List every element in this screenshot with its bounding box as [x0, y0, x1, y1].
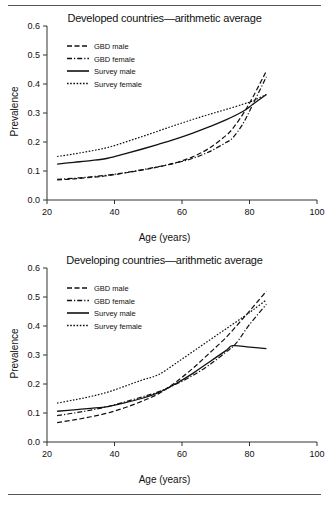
bottom-divider-rule [8, 494, 321, 495]
x-tick-label: 100 [309, 449, 324, 459]
y-tick-label: 0.4 [27, 79, 40, 89]
legend-label: Survey female [94, 322, 142, 331]
x-tick-label: 40 [109, 449, 119, 459]
x-tick-label: 80 [244, 449, 254, 459]
x-tick-label: 80 [244, 207, 254, 217]
legend-label: GBD male [94, 284, 129, 293]
x-tick-label: 100 [309, 207, 324, 217]
y-tick-label: 0.6 [27, 263, 40, 273]
y-tick-label: 0.3 [27, 350, 40, 360]
series-line [57, 300, 266, 403]
legend-label: Survey female [94, 80, 142, 89]
chart-developed: Developed countries—arithmetic average P… [0, 10, 329, 252]
x-tick-label: 40 [109, 207, 119, 217]
x-tick-label: 20 [42, 207, 52, 217]
y-tick-label: 0.6 [27, 21, 40, 31]
x-tick-label: 20 [42, 449, 52, 459]
series-line [57, 304, 266, 415]
chart-developing: Developing countries—arithmetic average … [0, 252, 329, 494]
series-line [57, 346, 266, 412]
y-tick-label: 0.3 [27, 108, 40, 118]
y-tick-label: 0.1 [27, 408, 40, 418]
series-line [57, 291, 266, 422]
y-tick-label: 0.0 [27, 437, 40, 447]
plot-area: 0.00.10.20.30.40.50.620406080100GBD male… [0, 252, 329, 494]
y-tick-label: 0.5 [27, 292, 40, 302]
top-divider-rule [8, 5, 321, 6]
y-tick-label: 0.4 [27, 321, 40, 331]
axis-spines [47, 26, 317, 200]
series-line [57, 77, 266, 180]
legend-label: Survey male [94, 309, 136, 318]
legend-label: Survey male [94, 67, 136, 76]
legend-label: GBD female [94, 55, 135, 64]
y-tick-label: 0.2 [27, 137, 40, 147]
legend-label: GBD male [94, 42, 129, 51]
y-tick-label: 0.2 [27, 379, 40, 389]
legend-label: GBD female [94, 297, 135, 306]
series-line [57, 94, 266, 164]
x-tick-label: 60 [177, 207, 187, 217]
series-line [57, 71, 266, 180]
axis-spines [47, 268, 317, 442]
y-tick-label: 0.1 [27, 166, 40, 176]
x-tick-label: 60 [177, 449, 187, 459]
plot-area: 0.00.10.20.30.40.50.620406080100GBD male… [0, 10, 329, 252]
figure-page: Developed countries—arithmetic average P… [0, 0, 329, 508]
y-tick-label: 0.5 [27, 50, 40, 60]
y-tick-label: 0.0 [27, 195, 40, 205]
